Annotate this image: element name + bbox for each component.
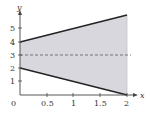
x-tick-label: 1.5 (94, 99, 107, 108)
y-tick-label: 5 (10, 24, 15, 33)
x-axis-label: x (140, 91, 145, 100)
chart: 1 2 3 4 5 0 0.5 1 1.5 2 y x (0, 0, 150, 119)
y-tick-label: 2 (10, 64, 15, 73)
y-tick-label: 4 (10, 38, 15, 47)
y-tick-label: 1 (10, 77, 15, 86)
y-tick-label: 3 (10, 51, 15, 60)
y-axis-label: y (16, 3, 22, 12)
x-tick-label: 2 (124, 99, 129, 108)
x-tick-label: 0.5 (41, 99, 54, 108)
x-axis-arrow-icon (133, 93, 138, 97)
x-tick-label: 0 (11, 99, 16, 108)
x-tick-label: 1 (71, 99, 76, 108)
